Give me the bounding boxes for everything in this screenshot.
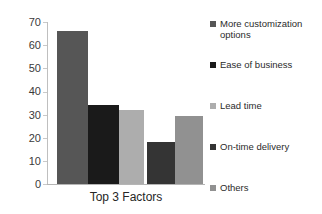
legend-label: Ease of business [220,59,320,70]
legend-swatch-icon [210,144,216,150]
legend-swatch-icon [210,185,216,191]
legend-label: On-time delivery [220,141,320,152]
legend-item-on-time-delivery[interactable]: On-time delivery [210,141,320,152]
legend-item-lead-time[interactable]: Lead time [210,100,320,111]
bar-ease-of-business [88,105,119,184]
legend-item-more-customization-options[interactable]: More customization options [210,18,320,40]
bar-lead-time [119,110,144,184]
y-tick-label-10: 10 [11,156,41,167]
legend-item-others[interactable]: Others [210,182,320,193]
y-tick-label-70: 70 [11,17,41,28]
bar-more-customization-options [57,31,88,184]
y-tick-label-60: 60 [11,40,41,51]
legend-swatch-icon [210,21,216,27]
legend-label: More customization options [220,18,320,40]
legend-swatch-icon [210,103,216,109]
bar-series [47,22,205,184]
plot-area [47,22,205,184]
legend-label: Lead time [220,100,320,111]
x-axis-line [47,184,205,185]
legend-item-ease-of-business[interactable]: Ease of business [210,59,320,70]
y-tick-label-20: 20 [11,133,41,144]
bar-chart: 70 60 50 40 30 20 10 0 Top 3 Factors Mor… [0,0,322,214]
chart-legend: More customization options Ease of busin… [210,18,320,208]
y-tick-label-40: 40 [11,86,41,97]
bar-others [175,116,203,184]
legend-label: Others [220,182,320,193]
legend-swatch-icon [210,62,216,68]
y-axis-labels: 70 60 50 40 30 20 10 0 [5,0,41,214]
y-tick-label-30: 30 [11,110,41,121]
x-axis-title: Top 3 Factors [47,190,205,204]
y-tick-label-50: 50 [11,63,41,74]
y-tick-label-0: 0 [11,179,41,190]
bar-on-time-delivery [147,142,175,184]
